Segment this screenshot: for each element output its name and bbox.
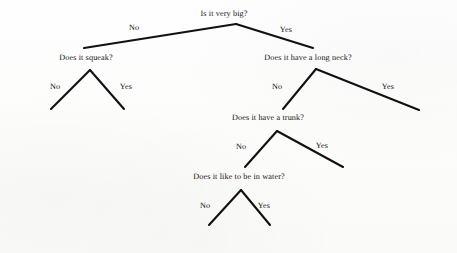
edge-long-neck-to-giraffe [316, 69, 419, 110]
node-does-it-have-a-long-neck: Does it have a long neck? [264, 53, 351, 62]
edge-long-neck-to-trunk [283, 69, 316, 109]
edge-label-trunk-no: No [236, 142, 246, 151]
node-is-it-very-big: Is it very big? [200, 9, 247, 18]
decision-tree-diagram: Is it very big? Does it squeak? Does it … [0, 0, 457, 253]
edge-label-root-yes: Yes [280, 25, 292, 34]
edge-label-long-neck-yes: Yes [382, 82, 394, 91]
node-does-it-squeak: Does it squeak? [59, 53, 113, 62]
edge-water-to-rhino [209, 190, 241, 225]
edge-label-root-no: No [129, 23, 139, 32]
edge-label-water-yes: Yes [258, 201, 270, 210]
edge-label-squeak-yes: Yes [120, 82, 132, 91]
edge-label-squeak-no: No [50, 82, 60, 91]
edge-label-trunk-yes: Yes [316, 141, 328, 150]
tree-edges [0, 0, 457, 253]
edge-label-long-neck-no: No [272, 82, 282, 91]
edge-trunk-to-elephant [277, 131, 343, 167]
edge-root-to-long-neck [236, 24, 313, 48]
edge-trunk-to-water [245, 131, 277, 167]
edge-label-water-no: No [200, 201, 210, 210]
node-does-it-have-a-trunk: Does it have a trunk? [232, 113, 304, 122]
node-does-it-like-to-be-in-water: Does it like to be in water? [193, 172, 285, 181]
edge-root-to-squeak [84, 24, 236, 48]
